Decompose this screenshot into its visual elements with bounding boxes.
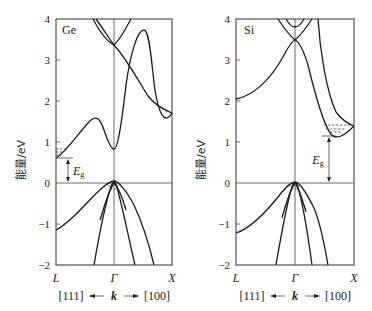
si-dir-111: [111] (239, 289, 264, 303)
si-ytick-4: 4 (225, 13, 231, 25)
si-xtick-X: X (349, 271, 358, 285)
si-y-axis-label: 能量/eV (194, 140, 208, 180)
si-k-symbol: k (292, 289, 298, 303)
ge-ytick-0: 0 (45, 177, 51, 189)
ge-y-axis: 4 3 2 1 0 −1 −2 (38, 13, 60, 271)
ge-y-axis-label: 能量/eV (14, 140, 28, 180)
si-ytick-2: 2 (225, 95, 231, 107)
ge-xtick-X: X (167, 271, 176, 285)
si-xtick-gamma: Γ (291, 271, 300, 285)
ge-ytick-2: 2 (45, 95, 51, 107)
si-ytick-m2: −2 (218, 259, 230, 271)
ge-panel: 4 3 2 1 0 −1 −2 能量/eV Ge (14, 13, 176, 303)
si-eg-label: Eg (311, 153, 323, 168)
si-ytick-0: 0 (225, 177, 231, 189)
ge-xtick-gamma: Γ (110, 271, 119, 285)
ge-eg-label: Eg (72, 164, 84, 179)
ge-ytick-1: 1 (45, 136, 51, 148)
si-xtick-L: L (232, 271, 240, 285)
ge-material-label: Ge (62, 23, 76, 37)
si-panel: 4 3 2 1 0 −1 −2 能量/eV Si (194, 13, 358, 303)
ge-dir-111: [111] (58, 289, 83, 303)
si-material-label: Si (244, 23, 255, 37)
band-structure-figure: 4 3 2 1 0 −1 −2 能量/eV Ge (0, 0, 372, 311)
ge-valence-bands (56, 181, 154, 265)
si-band-gap-marker: Eg (311, 136, 336, 182)
ge-ytick-4: 4 (45, 13, 51, 25)
ge-ytick-3: 3 (45, 54, 51, 66)
ge-k-symbol: k (111, 289, 117, 303)
si-ytick-m1: −1 (218, 218, 230, 230)
si-k-direction: [111] k [100] (239, 289, 351, 303)
ge-ytick-m2: −2 (38, 259, 50, 271)
si-ytick-3: 3 (225, 54, 231, 66)
si-valence-bands (236, 182, 328, 265)
ge-dir-100: [100] (144, 289, 170, 303)
ge-band-gap-marker: Eg (56, 158, 84, 182)
ge-ytick-m1: −1 (38, 218, 50, 230)
ge-k-direction: [111] k [100] (58, 289, 170, 303)
ge-xtick-L: L (52, 271, 60, 285)
si-ytick-1: 1 (225, 136, 231, 148)
si-dir-100: [100] (325, 289, 351, 303)
